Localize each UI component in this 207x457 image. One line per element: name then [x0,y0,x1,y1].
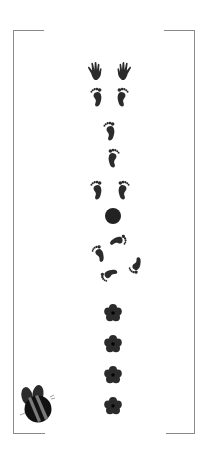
flower-icon [103,334,123,354]
frame-top-left-horizontal [13,30,44,31]
circle-icon [105,208,121,224]
foot-icon [112,232,126,251]
foot-icon [91,244,105,263]
right-hand-icon [116,61,136,81]
right-foot-icon [106,147,122,168]
flower-icon [103,365,123,385]
right-foot-icon [116,179,132,200]
frame-bottom-left-horizontal [14,433,45,434]
flower-icon [103,303,123,323]
frame-left-vertical [13,30,14,434]
flower-icon [103,396,123,416]
left-hand-icon [83,61,103,81]
bee-icon [16,384,58,426]
left-foot-icon [101,120,117,141]
left-foot-icon [88,86,104,107]
left-foot-icon [88,179,104,200]
frame-right-vertical [194,30,195,434]
frame-top-right-horizontal [164,30,195,31]
right-foot-icon [115,86,131,107]
frame-bottom-right-horizontal [166,433,195,434]
foot-icon [102,266,116,285]
foot-icon [128,256,142,275]
